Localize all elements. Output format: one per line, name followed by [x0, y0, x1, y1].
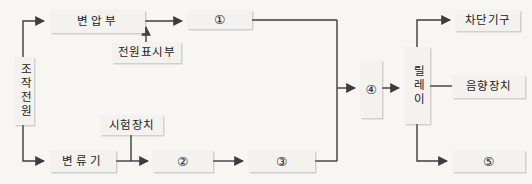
node-transformer[interactable]: 변압부	[50, 10, 145, 33]
node-control-power[interactable]: 조작전원	[14, 57, 34, 125]
node-test-device-label: 시험장치	[109, 119, 155, 132]
node-block-3[interactable]: ③	[248, 150, 315, 172]
wire-relay-to-block5	[417, 124, 447, 161]
node-transformer-label: 변압부	[77, 15, 119, 28]
wire-control-power-to-transformer	[23, 21, 44, 57]
node-test-device[interactable]: 시험장치	[100, 115, 163, 135]
node-block-4[interactable]: ④	[360, 60, 382, 118]
node-block-1[interactable]: ①	[187, 10, 252, 29]
node-breaker[interactable]: 차단기구	[455, 10, 520, 31]
wire-control-power-to-ct	[23, 125, 44, 161]
node-block-2[interactable]: ②	[152, 150, 213, 172]
wire-relay-to-breaker	[417, 20, 450, 47]
node-block-5[interactable]: ⑤	[452, 150, 525, 172]
node-current-transformer-label: 변류기	[62, 155, 104, 168]
node-control-power-label: 조작전원	[17, 63, 30, 119]
node-relay[interactable]: 릴레이	[404, 47, 430, 124]
node-sound-device-label: 음향장치	[466, 80, 512, 93]
block-diagram: 조작전원 변압부 전원표시부 ① 변류기 시험장치 ② ③ ④ 릴레이 차단기구…	[0, 0, 532, 184]
node-block-4-label: ④	[365, 82, 376, 97]
node-block-2-label: ②	[177, 154, 188, 169]
node-block-1-label: ①	[214, 12, 225, 27]
node-block-5-label: ⑤	[483, 154, 494, 169]
node-power-indicator-label: 전원표시부	[118, 46, 176, 59]
node-power-indicator[interactable]: 전원표시부	[112, 42, 181, 63]
node-breaker-label: 차단기구	[465, 14, 511, 27]
node-sound-device[interactable]: 음향장치	[452, 75, 525, 98]
node-current-transformer[interactable]: 변류기	[50, 150, 116, 172]
node-relay-label: 릴레이	[410, 65, 423, 107]
node-block-3-label: ③	[276, 154, 287, 169]
